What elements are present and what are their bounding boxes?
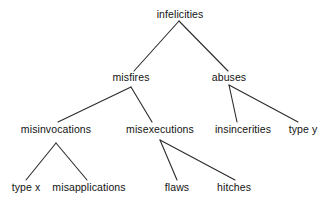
tree-edge-abuses-to-insincerities (229, 85, 237, 122)
tree-node-type-y: type y (289, 124, 318, 135)
tree-node-insincerities: insincerities (215, 124, 271, 135)
tree-edge-misexecutions-to-hitches (160, 140, 235, 180)
tree-edge-abuses-to-type-y (229, 85, 298, 122)
tree-node-infelicities: infelicities (157, 9, 204, 20)
tree-node-misfires: misfires (113, 72, 150, 83)
tree-edge-infelicities-to-abuses (179, 21, 228, 71)
tree-node-abuses: abuses (212, 72, 246, 83)
tree-node-misexecutions: misexecutions (126, 124, 194, 135)
tree-node-misapplications: misapplications (52, 182, 125, 193)
tree-diagram: infelicitiesmisfiresabusesmisinvocations… (0, 0, 327, 199)
tree-edges-svg (0, 0, 327, 199)
tree-node-misinvocations: misinvocations (21, 124, 91, 135)
tree-node-type-x: type x (12, 182, 41, 193)
tree-edge-misexecutions-to-flaws (160, 140, 177, 180)
tree-edge-misfires-to-misinvocations (58, 87, 131, 122)
tree-edge-infelicities-to-misfires (134, 21, 179, 71)
tree-edge-misfires-to-misexecutions (131, 87, 152, 122)
tree-node-hitches: hitches (217, 182, 251, 193)
tree-node-flaws: flaws (165, 182, 189, 193)
tree-edge-misinvocations-to-type-x (26, 143, 56, 180)
tree-edge-misinvocations-to-misapplications (56, 143, 87, 180)
edge-group (26, 21, 298, 180)
